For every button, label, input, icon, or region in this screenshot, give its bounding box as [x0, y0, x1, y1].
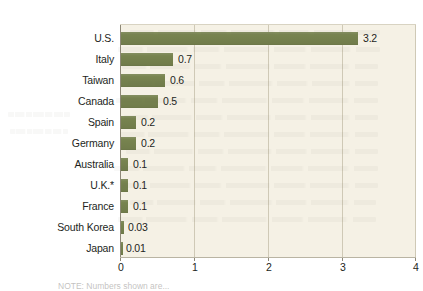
x-tick-label-0: 0 [118, 261, 124, 273]
category-label-italy: Italy [40, 53, 114, 65]
gridline-1 [194, 25, 195, 257]
category-label-spain: Spain [40, 116, 114, 128]
horizontal-bar-chart: U.S. Italy Taiwan Canada Spain Germany A… [40, 16, 423, 289]
value-label-spain: 0.2 [141, 116, 155, 128]
value-label-italy: 0.7 [178, 53, 192, 65]
chart-note: NOTE: Numbers shown are... [58, 281, 418, 291]
bar-taiwan [121, 74, 165, 87]
value-label-uk: 0.1 [133, 179, 147, 191]
x-axis: 0 1 2 3 4 [120, 258, 416, 278]
bar-spain [121, 116, 136, 129]
gridline-2 [268, 25, 269, 257]
category-label-germany: Germany [40, 137, 114, 149]
value-label-canada: 0.5 [163, 95, 177, 107]
category-label-france: France [40, 200, 114, 212]
category-label-japan: Japan [40, 242, 114, 254]
bar-us [121, 32, 358, 45]
bar-france [121, 200, 128, 213]
plot-area [120, 24, 416, 258]
x-tick-label-4: 4 [413, 261, 419, 273]
value-label-australia: 0.1 [133, 158, 147, 170]
bar-germany [121, 137, 136, 150]
x-tick-label-2: 2 [266, 261, 272, 273]
category-label-australia: Australia [40, 158, 114, 170]
gridline-4 [415, 25, 416, 257]
bar-italy [121, 53, 173, 66]
value-label-taiwan: 0.6 [170, 74, 184, 86]
category-axis-labels: U.S. Italy Taiwan Canada Spain Germany A… [40, 24, 114, 258]
category-label-taiwan: Taiwan [40, 74, 114, 86]
category-label-us: U.S. [40, 32, 114, 44]
bar-uk [121, 179, 128, 192]
x-tick-label-3: 3 [340, 261, 346, 273]
bar-canada [121, 95, 158, 108]
category-label-south-korea: South Korea [40, 221, 114, 233]
bar-japan [121, 242, 123, 255]
category-label-uk: U.K.* [40, 179, 114, 191]
bar-australia [121, 158, 128, 171]
gridline-3 [342, 25, 343, 257]
value-label-south-korea: 0.03 [128, 221, 148, 233]
value-label-japan: 0.01 [126, 242, 146, 254]
bar-south-korea [121, 221, 124, 234]
value-label-us: 3.2 [363, 32, 377, 44]
category-label-canada: Canada [40, 95, 114, 107]
value-label-germany: 0.2 [141, 137, 155, 149]
value-label-france: 0.1 [133, 200, 147, 212]
x-tick-label-1: 1 [192, 261, 198, 273]
